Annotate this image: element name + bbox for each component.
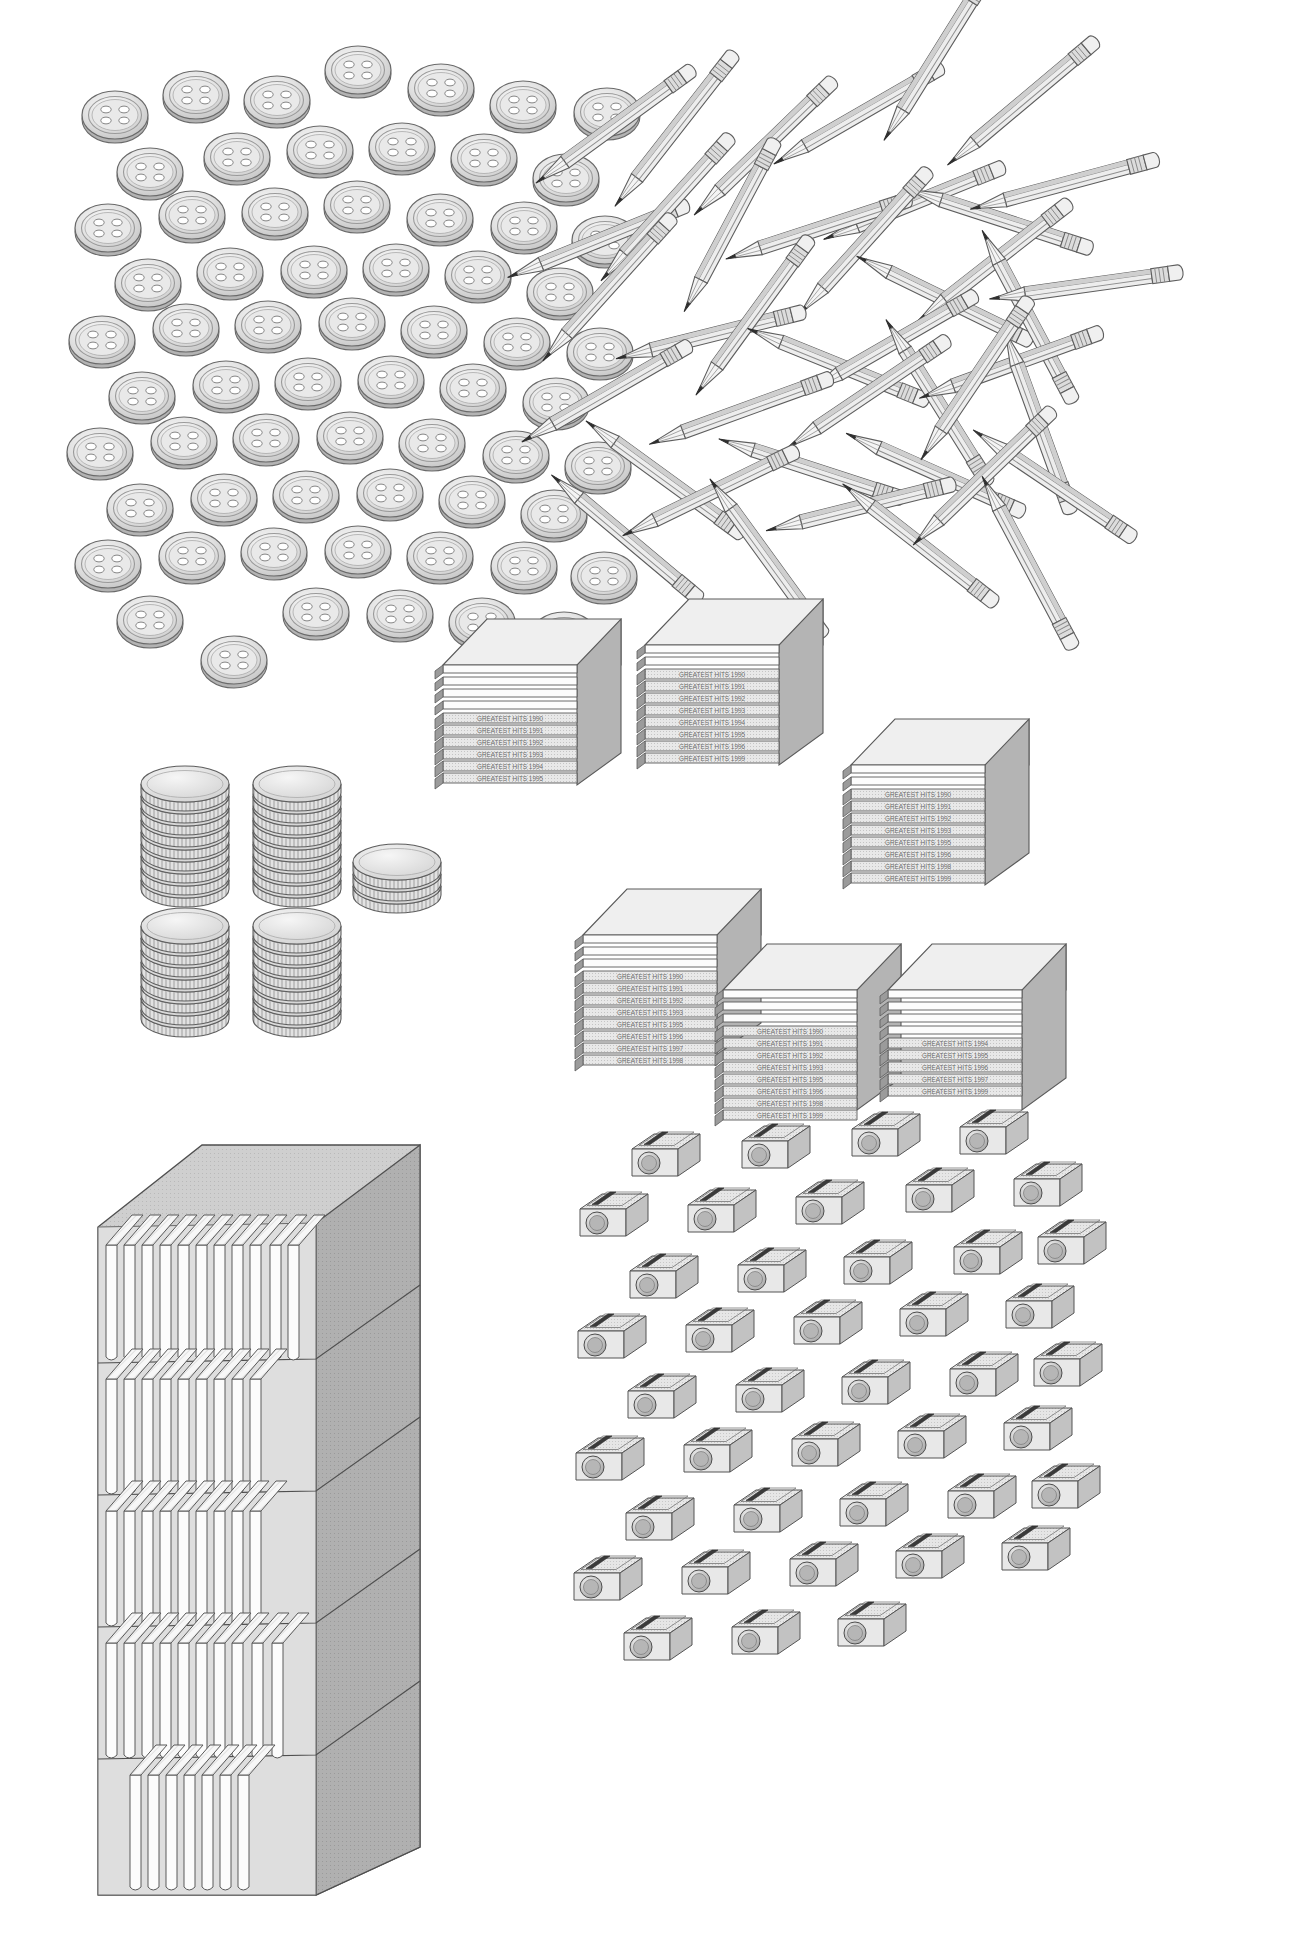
cd-spine-label: GREATEST HITS 1993 <box>679 707 746 714</box>
pencils-svg <box>505 50 1085 570</box>
cd-spine-label: GREATEST HITS 1997 <box>922 1076 989 1083</box>
cd-case: GREATEST HITS 1999 <box>637 753 779 769</box>
cd-spine-label: GREATEST HITS 1996 <box>922 1064 989 1071</box>
cd-spine-label: GREATEST HITS 1992 <box>477 739 544 746</box>
cd-spine-label: GREATEST HITS 1995 <box>617 1021 684 1028</box>
cd-spine-label: GREATEST HITS 1993 <box>885 827 952 834</box>
cd-spine-label: GREATEST HITS 1993 <box>617 1009 684 1016</box>
coin-stack <box>141 766 229 907</box>
coins-svg <box>115 760 425 1040</box>
cd-case: GREATEST HITS 1995 <box>435 773 577 789</box>
cd-spine-label: GREATEST HITS 1990 <box>757 1028 824 1035</box>
cd-stack: GREATEST HITS 1990 GREATEST HITS 1991 GR… <box>843 719 1029 889</box>
cd-spine-label: GREATEST HITS 1993 <box>757 1064 824 1071</box>
cd-spine-label: GREATEST HITS 1990 <box>617 973 684 980</box>
cd-spine-label: GREATEST HITS 1996 <box>617 1033 684 1040</box>
cd-spine-label: GREATEST HITS 1991 <box>757 1040 824 1047</box>
cd-spine-label: GREATEST HITS 1994 <box>477 763 544 770</box>
cd-spine-label: GREATEST HITS 1991 <box>477 727 544 734</box>
cd-spine-label: GREATEST HITS 1999 <box>922 1088 989 1095</box>
bookcase-svg <box>90 1105 430 1905</box>
coin-stack <box>253 908 341 1037</box>
bookcase-side-panel <box>316 1145 420 1895</box>
sharpeners-svg <box>570 1105 1090 1705</box>
cd-spine-label: GREATEST HITS 1990 <box>885 791 952 798</box>
cd-spine-label: GREATEST HITS 1991 <box>885 803 952 810</box>
cd-spine-label: GREATEST HITS 1993 <box>477 751 544 758</box>
coins-group <box>115 760 425 1040</box>
cd-stack: GREATEST HITS 1994 GREATEST HITS 1995 GR… <box>880 944 1066 1110</box>
cd-spine-label: GREATEST HITS 1994 <box>679 719 746 726</box>
shelf-books <box>106 1481 287 1626</box>
cd-stack: GREATEST HITS 1990 GREATEST HITS 1991 GR… <box>637 599 823 769</box>
coin-stack <box>141 908 229 1037</box>
shelf-books <box>106 1349 287 1494</box>
cd-spine-label: GREATEST HITS 1992 <box>885 815 952 822</box>
cd-spine-label: GREATEST HITS 1994 <box>922 1040 989 1047</box>
cd-spine-label: GREATEST HITS 1992 <box>757 1052 824 1059</box>
cd-spine-label: GREATEST HITS 1996 <box>679 743 746 750</box>
cd-spine-label: GREATEST HITS 1996 <box>757 1088 824 1095</box>
illustration-page: GREATEST HITS 1990 GREATEST HITS 1991 GR… <box>0 0 1306 1933</box>
cd-spine-label: GREATEST HITS 1992 <box>617 997 684 1004</box>
sharpener-item <box>574 1110 1106 1660</box>
cd-spine-label: GREATEST HITS 1997 <box>617 1045 684 1052</box>
coin-stack <box>253 766 341 907</box>
cd-stack: GREATEST HITS 1990 GREATEST HITS 1991 GR… <box>435 619 621 789</box>
cd-spine-label: GREATEST HITS 1990 <box>679 671 746 678</box>
cd-stacks-svg: GREATEST HITS 1990 GREATEST HITS 1991 GR… <box>415 565 1075 1125</box>
cd-spine-label: GREATEST HITS 1995 <box>757 1076 824 1083</box>
cd-case: GREATEST HITS 1998 <box>575 1055 717 1071</box>
cd-spine-label: GREATEST HITS 1995 <box>922 1052 989 1059</box>
cd-spine-label: GREATEST HITS 1996 <box>885 851 952 858</box>
cd-spine-label: GREATEST HITS 1998 <box>885 863 952 870</box>
cd-spine-label: GREATEST HITS 1991 <box>679 683 746 690</box>
sharpeners-group <box>570 1105 1090 1705</box>
pencils-group <box>505 50 1085 570</box>
cd-spine-label: GREATEST HITS 1995 <box>477 775 544 782</box>
cd-case: GREATEST HITS 1999 <box>843 873 985 889</box>
pencil-item <box>505 0 1184 652</box>
cd-spine-label: GREATEST HITS 1998 <box>617 1057 684 1064</box>
cd-stack: GREATEST HITS 1990 GREATEST HITS 1991 GR… <box>715 944 901 1126</box>
cd-case: GREATEST HITS 1999 <box>880 1086 1022 1102</box>
cd-spine-label: GREATEST HITS 1999 <box>885 875 952 882</box>
cd-spine-label: GREATEST HITS 1992 <box>679 695 746 702</box>
cd-spine-label: GREATEST HITS 1991 <box>617 985 684 992</box>
cd-spine-label: GREATEST HITS 1995 <box>679 731 746 738</box>
cd-spine-label: GREATEST HITS 1999 <box>679 755 746 762</box>
bookcase-group <box>90 1105 430 1905</box>
cd-stacks-group: GREATEST HITS 1990 GREATEST HITS 1991 GR… <box>415 565 1075 1125</box>
cd-spine-label: GREATEST HITS 1990 <box>477 715 544 722</box>
cd-spine-label: GREATEST HITS 1995 <box>885 839 952 846</box>
